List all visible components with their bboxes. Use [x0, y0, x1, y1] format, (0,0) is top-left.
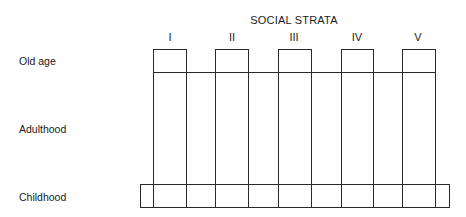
strata-diagram-lines	[0, 0, 466, 217]
